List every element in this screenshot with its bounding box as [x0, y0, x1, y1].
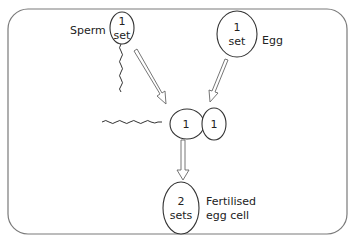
- sperm-count: 1: [119, 15, 126, 28]
- zygote-cell: 2 sets Fertilised egg cell: [163, 182, 256, 234]
- egg-unit: set: [229, 35, 246, 48]
- hollow-arrow-icon: [209, 59, 228, 102]
- arrow-sperm-to-fusion: [134, 49, 166, 104]
- sperm-label: Sperm: [70, 24, 106, 37]
- zygote-label-line1: Fertilised: [206, 195, 256, 208]
- zygote-ellipse: [163, 182, 199, 234]
- sperm-unit: set: [114, 29, 131, 42]
- sperm-cell: 1 set Sperm: [70, 12, 134, 92]
- arrow-fusion-to-zygote: [177, 140, 189, 180]
- zygote-unit: sets: [170, 209, 193, 222]
- fusion-cells: 1 1: [102, 108, 226, 140]
- egg-cell: 1 set Egg: [217, 11, 283, 57]
- hollow-arrow-icon: [177, 140, 189, 180]
- fertilisation-diagram: 1 set Sperm 1 set Egg 1 1 2 sets Fertili…: [0, 0, 361, 247]
- zygote-label-line2: egg cell: [206, 209, 249, 222]
- fused-egg-value: 1: [211, 118, 218, 131]
- fused-sperm-tail: [102, 121, 162, 124]
- hollow-arrow-icon: [134, 49, 166, 104]
- egg-ellipse: [217, 11, 257, 57]
- fused-sperm-value: 1: [183, 118, 190, 131]
- egg-label: Egg: [262, 34, 283, 47]
- egg-count: 1: [234, 21, 241, 34]
- zygote-count: 2: [178, 195, 185, 208]
- sperm-tail: [120, 44, 123, 92]
- arrow-egg-to-fusion: [209, 59, 228, 102]
